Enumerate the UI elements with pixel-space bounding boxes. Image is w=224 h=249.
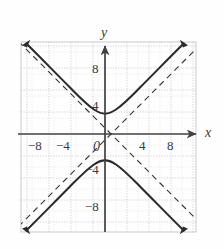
origin-label: 0 <box>93 140 100 153</box>
x-tick-label-neg4: −4 <box>56 139 70 152</box>
y-axis-label: y <box>101 26 107 39</box>
y-tick-label-neg8: −8 <box>85 200 99 213</box>
x-axis-label: x <box>205 126 211 139</box>
hyperbola-graph <box>0 0 224 249</box>
x-tick-label-neg8: −8 <box>28 139 42 152</box>
y-tick-label-4: 4 <box>92 99 99 112</box>
x-tick-label-4: 4 <box>139 139 146 152</box>
y-tick-label-neg4: −4 <box>85 163 99 176</box>
y-tick-label-8: 8 <box>92 62 99 75</box>
x-tick-label-8: 8 <box>167 139 174 152</box>
